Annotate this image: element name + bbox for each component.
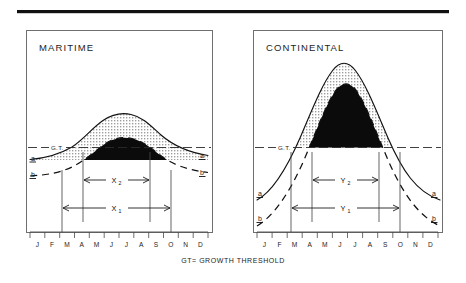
maritime-month-labels: J F M A M J J A S O N D [36,241,203,248]
maritime-label-right-b: b [200,169,204,176]
month-label: N [413,241,418,248]
month-label: J [353,241,357,248]
panel-maritime: MARITIME G.T. a b a b [26,31,214,249]
continental-span-y2-label: Y [341,176,346,185]
month-label: O [168,241,173,248]
continental-label-right-b: b [432,215,436,222]
continental-label-left-a: a [258,190,262,197]
maritime-span-x2-sub: 2 [119,180,122,186]
climate-growth-threshold-figure: MARITIME G.T. a b a b [0,0,466,283]
continental-label-left-b: b [258,215,262,222]
month-label: J [338,241,342,248]
continental-gt-label: G.T. [278,144,291,151]
month-label: A [368,241,373,248]
figure-root: MARITIME G.T. a b a b [0,0,466,283]
month-label: D [428,241,433,248]
month-label: A [307,241,312,248]
month-label: F [278,241,282,248]
month-label: J [263,241,267,248]
maritime-span-x2-label: X [112,176,117,185]
continental-span-y2-sub: 2 [348,180,351,186]
maritime-gt-label: G.T. [51,144,64,151]
month-label: A [139,241,144,248]
month-label: J [36,241,40,248]
month-label: M [322,241,328,248]
panel-continental: CONTINENTAL G.T. a b a b [253,31,443,249]
month-label: M [292,241,298,248]
maritime-label-right-a: a [200,152,204,159]
panel-maritime-title: MARITIME [39,42,94,53]
month-label: N [183,241,188,248]
month-label: O [398,241,403,248]
panel-continental-title: CONTINENTAL [266,42,344,53]
month-label: D [198,241,203,248]
month-label: M [94,241,100,248]
figure-caption: GT= GROWTH THRESHOLD [181,257,285,264]
top-rule [17,10,449,13]
month-label: J [125,241,129,248]
maritime-label-left-b: b [31,171,35,178]
month-label: S [154,241,159,248]
continental-month-labels: J F M A M J J A S O N D [263,241,433,248]
continental-span-y1-label: Y [341,204,346,213]
month-label: A [80,241,85,248]
month-label: M [64,241,70,248]
continental-label-right-a: a [432,190,436,197]
maritime-span-x1-sub: 1 [119,208,122,214]
continental-span-y1-sub: 1 [348,208,351,214]
month-label: F [50,241,54,248]
maritime-span-x1-label: X [112,204,117,213]
month-label: J [110,241,114,248]
maritime-label-left-a: a [31,155,35,162]
month-label: S [383,241,388,248]
